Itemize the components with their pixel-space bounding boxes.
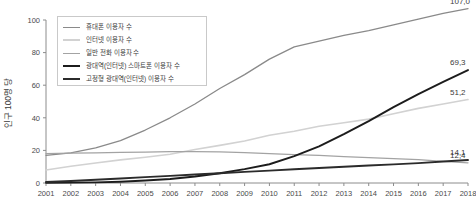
x-tick-label: 2001 — [38, 189, 55, 198]
legend-item[interactable]: 일반 전화 이용자 수 — [63, 47, 201, 59]
x-tick-label: 2010 — [261, 189, 278, 198]
line-chart: 020406080100 200120022003200420052006200… — [0, 0, 476, 210]
y-tick-label: 20 — [32, 146, 40, 155]
x-tick-label: 2006 — [162, 189, 179, 198]
x-tick-label: 2018 — [460, 189, 476, 198]
end-labels-group: 107,051,212,469,314,1 — [450, 0, 471, 160]
x-tick-label: 2016 — [410, 189, 427, 198]
y-tick-label: 40 — [32, 114, 40, 123]
legend-swatch-icon — [63, 27, 80, 28]
series-line — [46, 160, 468, 182]
x-tick-label: 2013 — [336, 189, 353, 198]
x-tick-label: 2005 — [137, 189, 154, 198]
legend-swatch-icon — [63, 78, 80, 80]
x-tick-label: 2008 — [211, 189, 228, 198]
legend-label: 고정형 광대역(인터넷) 이용자 수 — [86, 76, 174, 83]
legend-label: 광대역(인터넷) 스마트폰 이용자 수 — [86, 63, 180, 70]
y-axis-label: 인구 100명 당 — [3, 78, 13, 129]
y-tick-label: 0 — [36, 179, 40, 188]
series-end-label: 107,0 — [450, 0, 471, 6]
x-tick-label: 2017 — [435, 189, 452, 198]
y-tick-label: 80 — [32, 48, 40, 57]
series-end-label: 51,2 — [450, 88, 466, 97]
legend: 휴대폰 이용자 수 인터넷 이용자 수 일반 전화 이용자 수 광대역(인터넷)… — [57, 16, 207, 86]
legend-swatch-icon — [63, 65, 80, 67]
legend-item[interactable]: 휴대폰 이용자 수 — [63, 21, 201, 33]
x-tick-label: 2014 — [360, 189, 377, 198]
x-tick-label: 2011 — [286, 189, 302, 198]
x-tick-label: 2012 — [311, 189, 328, 198]
legend-item[interactable]: 인터넷 이용자 수 — [63, 34, 201, 46]
series-end-label: 14,1 — [450, 148, 466, 157]
legend-item[interactable]: 광대역(인터넷) 스마트폰 이용자 수 — [63, 60, 201, 72]
x-tick-label: 2009 — [236, 189, 253, 198]
legend-swatch-icon — [63, 39, 80, 41]
y-axis: 020406080100 — [27, 16, 46, 188]
y-tick-label: 100 — [27, 16, 40, 25]
legend-label: 인터넷 이용자 수 — [86, 37, 132, 44]
x-axis: 2001200220032004200520062007200820092010… — [38, 183, 476, 198]
series-line — [46, 70, 468, 183]
series-end-label: 69,3 — [450, 58, 466, 67]
legend-label: 일반 전화 이용자 수 — [86, 50, 139, 57]
legend-label: 휴대폰 이용자 수 — [86, 24, 132, 31]
x-tick-label: 2004 — [112, 189, 129, 198]
x-tick-label: 2007 — [187, 189, 204, 198]
y-tick-label: 60 — [32, 81, 40, 90]
x-tick-label: 2002 — [62, 189, 79, 198]
legend-swatch-icon — [63, 53, 80, 54]
x-tick-label: 2003 — [87, 189, 104, 198]
legend-item[interactable]: 고정형 광대역(인터넷) 이용자 수 — [63, 73, 201, 85]
x-tick-label: 2015 — [385, 189, 402, 198]
